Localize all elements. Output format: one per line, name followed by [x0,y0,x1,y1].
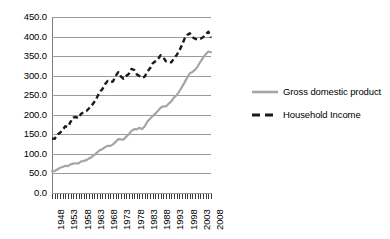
x-axis-tick [185,194,186,199]
x-axis-tick [139,194,140,199]
x-axis-tick-label: 1953 [69,209,79,230]
x-axis-tick [177,194,178,199]
x-axis-tick [147,194,148,199]
x-axis-tick [190,194,191,199]
dashed-black-line-swatch-icon [252,109,278,121]
y-axis-tick-label: 250.0 [24,90,47,100]
x-axis-tick-marks [52,194,212,199]
x-axis-tick [52,194,53,199]
x-axis-tick-label: 2008 [215,209,225,230]
x-axis-tick [137,194,138,199]
legend-entry-household-income: Household Income [252,109,388,121]
x-axis-tick [158,194,159,199]
x-axis-tick [150,194,151,199]
x-axis-tick-label: 2003 [202,209,212,230]
x-axis-tick-label: 1968 [109,209,119,230]
y-axis-tick-label: 400.0 [24,32,47,42]
x-axis-tick [179,194,180,199]
x-axis-tick-label: 1958 [83,209,93,230]
x-axis-tick-label: 1983 [149,209,159,230]
x-axis-tick-label: 1978 [136,209,146,230]
x-axis-tick [155,194,156,199]
x-axis-tick [118,194,119,199]
y-axis-tick-label: 150.0 [24,129,47,139]
chart-legend: Gross domestic product Household Income [252,86,388,132]
x-axis-tick-label: 1988 [162,209,172,230]
x-axis-tick [174,194,175,199]
x-axis-tick [94,194,95,199]
x-axis-tick [187,194,188,199]
y-axis-tick-label: 50.0 [29,168,47,178]
x-axis-tick [200,194,201,199]
x-axis-tick [171,194,172,199]
y-axis-tick-label: 450.0 [24,12,47,22]
x-axis-tick [163,194,164,199]
x-axis-tick [126,194,127,199]
x-axis-tick [169,194,170,199]
x-axis-tick [92,194,93,199]
x-axis-tick [211,194,212,199]
x-axis-tick [142,194,143,199]
x-axis-tick-label: 1973 [122,209,132,230]
x-axis-tick [86,194,87,199]
x-axis-tick-label: 1998 [189,209,199,230]
x-axis-tick [63,194,64,199]
x-axis-tick-label: 1963 [96,209,106,230]
x-axis-tick [195,194,196,199]
gridline [52,193,211,194]
x-axis-tick [71,194,72,199]
x-axis-tick [55,194,56,199]
x-axis-tick [129,194,130,199]
x-axis-tick-label: 1993 [175,209,185,230]
x-axis-tick [100,194,101,199]
legend-entry-gross-domestic-product: Gross domestic product [252,86,388,98]
y-axis-tick-label: 300.0 [24,71,47,81]
x-axis-tick [81,194,82,199]
y-axis-tick-label: 100.0 [24,149,47,159]
x-axis-tick [105,194,106,199]
x-axis-tick [68,194,69,199]
x-axis-tick [76,194,77,199]
x-axis-tick [121,194,122,199]
plot-area [52,17,211,193]
y-axis-tick-label: 0.0 [34,188,47,198]
x-axis-tick [208,194,209,199]
x-axis-tick [79,194,80,199]
x-axis-tick [134,194,135,199]
x-axis-tick [182,194,183,199]
x-axis-tick [110,194,111,199]
y-axis-tick-label: 350.0 [24,51,47,61]
x-axis-tick [65,194,66,199]
legend-label-household-income: Household Income [283,109,361,121]
x-axis-tick-label: 1948 [56,209,66,230]
x-axis-tick [206,194,207,199]
x-axis-tick [113,194,114,199]
x-axis-tick [73,194,74,199]
y-axis-tick-labels: 450.0400.0350.0300.0250.0200.0150.0100.0… [0,0,50,239]
solid-gray-line-swatch-icon [252,86,278,98]
y-axis-tick-label: 200.0 [24,110,47,120]
x-axis-tick [192,194,193,199]
x-axis-tick [102,194,103,199]
line-chart: 450.0400.0350.0300.0250.0200.0150.0100.0… [0,0,390,239]
household-income-line-path [52,32,211,139]
x-axis-tick [60,194,61,199]
x-axis-tick [116,194,117,199]
series-lines [52,17,211,193]
x-axis-tick [166,194,167,199]
x-axis-tick [203,194,204,199]
x-axis-tick [153,194,154,199]
x-axis-tick [198,194,199,199]
x-axis-tick [132,194,133,199]
legend-label-gross-domestic-product: Gross domestic product [283,86,381,98]
x-axis-tick [57,194,58,199]
x-axis-tick [145,194,146,199]
x-axis-tick [161,194,162,199]
x-axis-tick [84,194,85,199]
x-axis-tick [108,194,109,199]
x-axis-tick [124,194,125,199]
x-axis-tick-labels: 1948195319581963196819731978198319881993… [52,200,212,239]
x-axis-tick [89,194,90,199]
x-axis-tick [97,194,98,199]
